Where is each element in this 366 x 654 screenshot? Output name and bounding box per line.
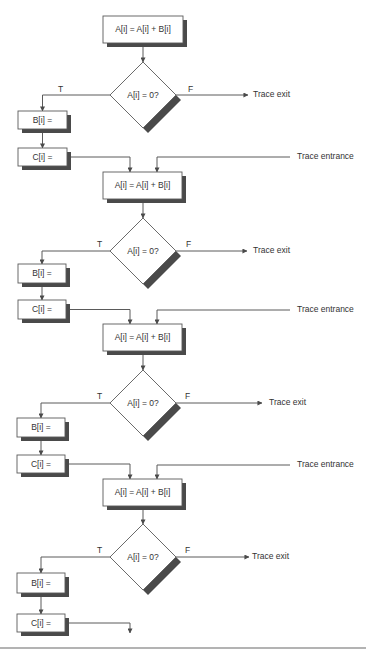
diamond-label: A[i] = 0?	[127, 90, 159, 100]
assign-b-box: B[i] =	[17, 573, 69, 597]
decision-diamond: A[i] = 0?	[110, 370, 181, 441]
true-branch-line	[41, 403, 110, 418]
assign-a-box: A[i] = A[i] + B[i]	[103, 16, 187, 47]
box-label: A[i] = A[i] + B[i]	[115, 180, 171, 190]
true-branch-line	[41, 557, 110, 573]
iteration-1: Trace entranceA[i] = A[i] + B[i]A[i] = 0…	[18, 16, 354, 172]
assign-a-box: A[i] = A[i] + B[i]	[103, 172, 186, 203]
false-label: F	[186, 239, 191, 249]
flow-c-to-next	[67, 157, 130, 172]
box-label: B[i] =	[32, 268, 52, 278]
assign-c-box: C[i] =	[17, 614, 69, 636]
diamond-label: A[i] = 0?	[127, 398, 159, 408]
iteration-4: A[i] = A[i] + B[i]A[i] = 0?B[i] =C[i] =T…	[17, 479, 290, 636]
box-label: C[i] =	[32, 152, 52, 162]
box-label: C[i] =	[31, 618, 51, 628]
diamond-label: A[i] = 0?	[127, 552, 159, 562]
assign-c-box: C[i] =	[18, 300, 70, 323]
assign-c-box: C[i] =	[17, 455, 69, 477]
decision-diamond: A[i] = 0?	[110, 524, 181, 595]
iteration-3: Trace entranceA[i] = A[i] + B[i]A[i] = 0…	[17, 324, 354, 479]
box-label: B[i] =	[31, 422, 51, 432]
trace-entrance-arrow	[157, 157, 290, 172]
iteration-2: Trace entranceA[i] = A[i] + B[i]A[i] = 0…	[18, 172, 354, 324]
diamond-label: A[i] = 0?	[127, 246, 159, 256]
box-label: C[i] =	[32, 304, 52, 314]
trace-entrance-arrow	[157, 465, 290, 479]
false-label: F	[185, 391, 190, 401]
assign-b-box: B[i] =	[18, 264, 70, 287]
trace-entrance-arrow	[157, 310, 290, 324]
decision-diamond: A[i] = 0?	[110, 218, 181, 289]
true-label: T	[97, 239, 102, 249]
false-label: F	[185, 545, 190, 555]
trace-exit-label: Trace exit	[252, 551, 290, 561]
trace-entrance-label: Trace entrance	[297, 459, 354, 469]
assign-a-box: A[i] = A[i] + B[i]	[103, 324, 186, 355]
box-label: B[i] =	[31, 578, 51, 588]
box-label: A[i] = A[i] + B[i]	[115, 24, 171, 34]
assign-a-box: A[i] = A[i] + B[i]	[103, 479, 186, 510]
box-label: C[i] =	[31, 459, 51, 469]
assign-b-box: B[i] =	[17, 418, 69, 441]
true-label: T	[97, 391, 102, 401]
assign-c-box: C[i] =	[18, 148, 71, 170]
flow-c-to-continue	[65, 623, 130, 633]
box-label: B[i] =	[33, 115, 53, 125]
box-label: A[i] = A[i] + B[i]	[115, 487, 171, 497]
trace-flowchart: Trace entranceA[i] = A[i] + B[i]A[i] = 0…	[0, 0, 366, 654]
trace-exit-label: Trace exit	[253, 245, 291, 255]
assign-b-box: B[i] =	[18, 111, 71, 133]
true-branch-line	[43, 95, 111, 111]
true-label: T	[97, 545, 102, 555]
trace-entrance-label: Trace entrance	[297, 304, 354, 314]
flow-c-to-next	[66, 310, 130, 325]
false-label: F	[188, 84, 193, 94]
true-branch-line	[42, 251, 110, 264]
trace-exit-label: Trace exit	[269, 397, 307, 407]
trace-entrance-label: Trace entrance	[297, 151, 354, 161]
true-label: T	[58, 84, 63, 94]
flow-c-to-next	[65, 464, 130, 479]
trace-exit-label: Trace exit	[253, 89, 291, 99]
box-label: A[i] = A[i] + B[i]	[115, 332, 171, 342]
decision-diamond: A[i] = 0?	[110, 62, 181, 133]
